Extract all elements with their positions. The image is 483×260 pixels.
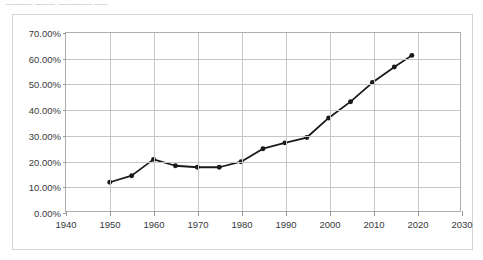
series-data-point [217, 165, 222, 170]
x-gridline [154, 33, 155, 211]
y-axis-tick-label: 70.00% [29, 28, 61, 39]
series-data-point [392, 65, 397, 70]
y-axis-tick-label: 50.00% [29, 79, 61, 90]
y-tick-mark [63, 162, 66, 163]
x-gridline [242, 33, 243, 211]
x-axis-tick-label: 1960 [143, 219, 164, 230]
y-gridline [66, 59, 460, 60]
y-tick-mark [63, 59, 66, 60]
x-axis-tick-label: 1940 [55, 219, 76, 230]
chart-page: ──── ─── ───── ── 0.00%10.00%20.00%30.00… [0, 0, 483, 260]
y-tick-mark [63, 84, 66, 85]
y-axis-tick-label: 30.00% [29, 130, 61, 141]
y-axis-tick-label: 40.00% [29, 105, 61, 116]
series-data-point [129, 173, 134, 178]
x-axis-tick-label: 2030 [451, 219, 472, 230]
x-tick-mark [462, 211, 463, 216]
x-tick-mark [330, 211, 331, 216]
x-tick-mark [110, 211, 111, 216]
x-tick-mark [242, 211, 243, 216]
y-gridline [66, 187, 460, 188]
y-gridline [66, 110, 460, 111]
series-data-point [173, 163, 178, 168]
x-tick-mark [154, 211, 155, 216]
x-axis-tick-label: 2010 [363, 219, 384, 230]
x-tick-mark [374, 211, 375, 216]
y-tick-mark [63, 110, 66, 111]
plot-area: 0.00%10.00%20.00%30.00%40.00%50.00%60.00… [65, 32, 461, 212]
x-gridline [330, 33, 331, 211]
y-axis-tick-label: 0.00% [34, 208, 61, 219]
x-gridline [110, 33, 111, 211]
x-tick-mark [418, 211, 419, 216]
y-tick-mark [63, 33, 66, 34]
y-tick-mark [63, 187, 66, 188]
x-axis-tick-label: 1980 [231, 219, 252, 230]
x-axis-tick-label: 2020 [407, 219, 428, 230]
y-gridline [66, 162, 460, 163]
x-axis-tick-label: 1950 [99, 219, 120, 230]
x-gridline [374, 33, 375, 211]
x-gridline [418, 33, 419, 211]
x-tick-mark [198, 211, 199, 216]
y-gridline [66, 136, 460, 137]
series-data-point [409, 53, 414, 58]
y-gridline [66, 84, 460, 85]
x-tick-mark [66, 211, 67, 216]
document-caption-fragment: ──── ─── ───── ── [6, 0, 176, 9]
chart-frame: 0.00%10.00%20.00%30.00%40.00%50.00%60.00… [12, 14, 473, 250]
series-data-point [261, 146, 266, 151]
x-axis-tick-label: 1970 [187, 219, 208, 230]
series-line [110, 55, 412, 182]
x-gridline [286, 33, 287, 211]
y-tick-mark [63, 136, 66, 137]
x-tick-mark [286, 211, 287, 216]
y-axis-tick-label: 60.00% [29, 53, 61, 64]
x-gridline [198, 33, 199, 211]
x-axis-tick-label: 2000 [319, 219, 340, 230]
y-axis-tick-label: 20.00% [29, 156, 61, 167]
x-axis-tick-label: 1990 [275, 219, 296, 230]
series-data-point [348, 99, 353, 104]
y-axis-tick-label: 10.00% [29, 182, 61, 193]
